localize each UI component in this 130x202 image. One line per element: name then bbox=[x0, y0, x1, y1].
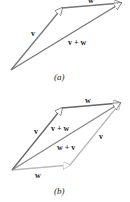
label-b-w-plus-v: w + v bbox=[57, 143, 75, 152]
label-a-w: w bbox=[88, 0, 94, 5]
label-a-v-plus-w: v + w bbox=[68, 38, 87, 47]
vector-b-v bbox=[12, 108, 62, 170]
label-b-w-bottom: w bbox=[35, 171, 41, 180]
vector-b-v-right bbox=[70, 103, 120, 165]
vector-a-v bbox=[11, 8, 62, 70]
caption-b: (b) bbox=[54, 186, 65, 196]
label-b-v-right: v bbox=[99, 132, 103, 141]
label-a-v: v bbox=[31, 29, 35, 38]
figure-b: w v v + w w + v v w (b) bbox=[12, 96, 120, 196]
vector-addition-diagram: w v v + w (a) w v v + w w + v v w (b) bbox=[0, 0, 130, 202]
vector-a-v-plus-w bbox=[11, 3, 121, 70]
vector-b-diagonal bbox=[12, 103, 120, 170]
vector-b-w-bottom bbox=[12, 165, 70, 170]
figure-a: w v v + w (a) bbox=[11, 0, 121, 82]
label-b-v: v bbox=[34, 127, 38, 136]
vector-b-w-top bbox=[62, 103, 120, 108]
caption-a: (a) bbox=[54, 72, 65, 82]
label-b-v-plus-w: v + w bbox=[51, 124, 70, 133]
label-b-w-top: w bbox=[85, 96, 91, 105]
